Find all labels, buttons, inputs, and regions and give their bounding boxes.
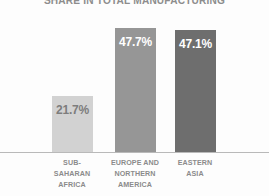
bar-sub-saharan-africa[interactable]: 21.7% [52, 96, 93, 152]
category-label-europe-and-northern-america: EUROPE AND NORTHERN AMERICA [101, 157, 169, 190]
bar-group: 21.7% [52, 96, 93, 152]
x-axis-line [0, 152, 269, 153]
category-label-sub-saharan-africa: SUB- SAHARAN AFRICA [38, 157, 106, 190]
category-label-eastern-asia: EASTERN ASIA [161, 157, 229, 179]
bar-value-label: 21.7% [52, 103, 93, 117]
bar-chart: SHARE IN TOTAL MANUFACTURING 21.7% 47.7%… [0, 0, 269, 196]
bar-group: 47.1% [175, 30, 216, 152]
category-axis-labels: SUB- SAHARAN AFRICA EUROPE AND NORTHERN … [0, 157, 269, 196]
bar-eastern-asia[interactable]: 47.1% [175, 30, 216, 152]
plot-area: 21.7% 47.7% 47.1% [0, 0, 269, 153]
bar-group: 47.7% [115, 28, 156, 152]
bar-europe-and-northern-america[interactable]: 47.7% [115, 28, 156, 152]
bar-value-label: 47.7% [115, 35, 156, 49]
bar-value-label: 47.1% [175, 37, 216, 51]
